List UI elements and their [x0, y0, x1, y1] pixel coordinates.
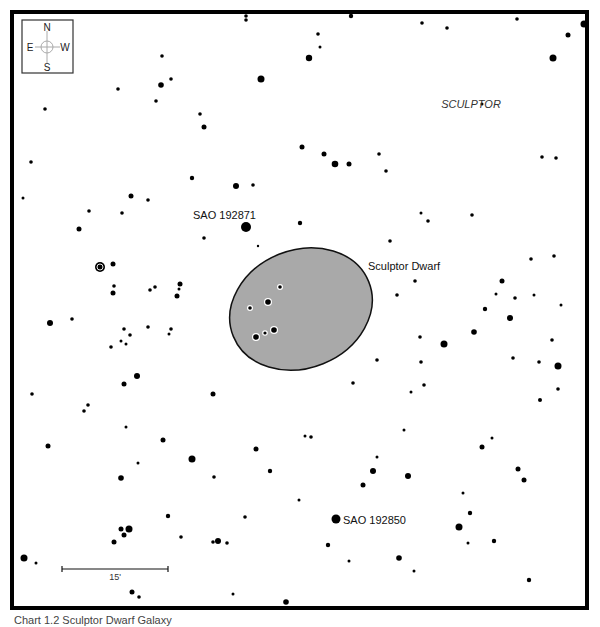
star-icon — [244, 18, 248, 22]
star-icon — [265, 299, 271, 305]
star-icon — [168, 333, 171, 336]
star-icon — [384, 169, 388, 173]
star-icon — [35, 562, 38, 565]
star-icon — [537, 360, 541, 364]
star-icon — [405, 473, 411, 479]
star-icon — [130, 590, 135, 595]
star-icon — [30, 392, 34, 396]
star-icon — [283, 599, 289, 605]
star-icon — [233, 183, 239, 189]
star-icon — [122, 327, 126, 331]
star-icon — [529, 257, 533, 261]
star-icon — [420, 21, 424, 25]
star-icon — [154, 99, 158, 103]
star-icon — [581, 21, 588, 28]
star-icon — [396, 555, 402, 561]
star-icon — [456, 524, 463, 531]
star-icon — [511, 356, 515, 360]
star-icon — [507, 315, 513, 321]
star-icon — [158, 82, 164, 88]
star-icon — [445, 26, 449, 30]
star-icon — [109, 345, 113, 349]
star-icon — [554, 156, 558, 160]
star-icon — [225, 541, 229, 545]
star-icon — [309, 435, 313, 439]
star-icon — [263, 331, 266, 334]
star-icon — [351, 381, 355, 385]
star-icon — [22, 197, 25, 200]
star-icon — [441, 341, 448, 348]
galaxy-label: Sculptor Dwarf — [368, 260, 441, 272]
star-icon — [516, 467, 521, 472]
star-icon — [556, 387, 560, 391]
star-icon — [21, 555, 28, 562]
star-icon — [166, 514, 170, 518]
star-icon — [119, 527, 124, 532]
star-icon — [128, 333, 132, 337]
star-icon — [146, 325, 150, 329]
star-icon — [413, 570, 416, 573]
constellation-label: SCULPTOR — [441, 98, 501, 110]
star-icon — [527, 578, 531, 582]
star-icon — [189, 456, 196, 463]
star-icon — [361, 483, 366, 488]
star-icon — [146, 198, 150, 202]
star-icon — [304, 435, 307, 438]
star-icon — [29, 160, 33, 164]
scale-bar-label: 15' — [109, 572, 121, 582]
star-icon — [118, 475, 124, 481]
compass-east: E — [27, 42, 34, 53]
star-icon — [322, 152, 327, 157]
star-icon — [278, 285, 282, 289]
star-icon — [306, 55, 312, 61]
star-icon — [468, 511, 472, 515]
star-icon — [248, 306, 252, 310]
star-icon — [271, 327, 277, 333]
star-label-sao-192850: SAO 192850 — [343, 514, 406, 526]
star-icon — [258, 76, 265, 83]
star-icon — [522, 478, 527, 483]
star-icon — [462, 492, 465, 495]
star-icon — [77, 227, 82, 232]
star-icon — [483, 307, 487, 311]
star-icon — [316, 32, 320, 36]
star-icon — [538, 398, 542, 402]
star-icon — [376, 456, 379, 459]
star-icon — [111, 291, 116, 296]
star-icon — [112, 284, 116, 288]
star-icon — [178, 288, 181, 291]
star-icon — [161, 438, 166, 443]
star-icon — [87, 209, 91, 213]
star-icon — [513, 296, 517, 300]
labeled-star-icon — [241, 222, 251, 232]
star-icon — [169, 327, 173, 331]
star-icon — [326, 543, 330, 547]
compass-west: W — [60, 42, 70, 53]
star-icon — [198, 112, 202, 116]
star-icon — [211, 392, 216, 397]
star-icon — [515, 17, 519, 21]
star-icon — [552, 254, 556, 258]
star-icon — [268, 469, 272, 473]
star-icon — [116, 87, 120, 91]
star-icon — [413, 279, 417, 283]
star-icon — [178, 282, 183, 287]
star-icon — [86, 403, 90, 407]
star-icon — [134, 373, 140, 379]
star-icon — [122, 382, 127, 387]
star-icon — [46, 444, 51, 449]
star-icon — [300, 145, 305, 150]
star-icon — [122, 533, 127, 538]
star-icon — [388, 239, 392, 243]
star-icon — [491, 437, 494, 440]
star-icon — [418, 335, 422, 339]
star-icon — [111, 262, 116, 267]
star-icon — [160, 54, 164, 58]
star-icon — [254, 447, 259, 452]
star-icon — [243, 515, 247, 519]
star-icon — [467, 542, 470, 545]
star-icon — [422, 383, 426, 387]
star-icon — [190, 176, 194, 180]
star-icon — [420, 212, 423, 215]
